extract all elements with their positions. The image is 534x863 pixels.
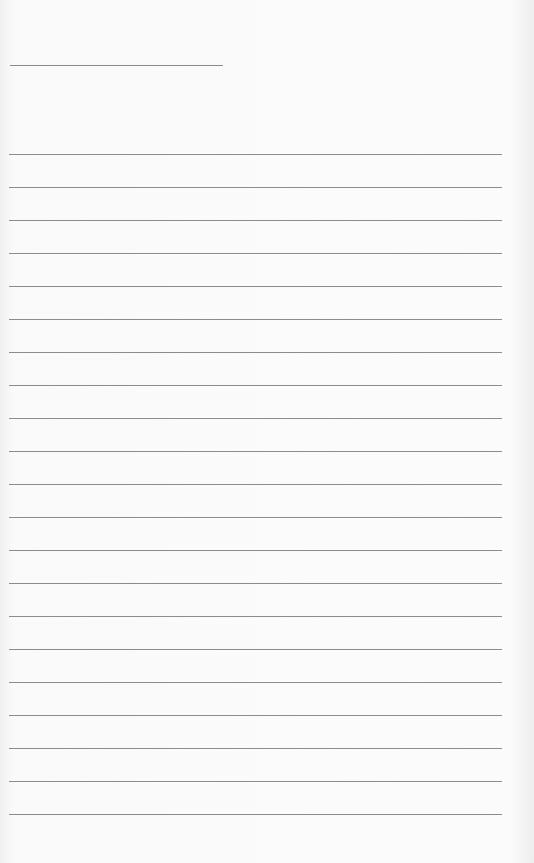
ruled-line xyxy=(9,286,502,287)
ruled-line xyxy=(9,319,502,320)
ruled-line xyxy=(9,781,502,782)
ruled-line xyxy=(9,385,502,386)
ruled-line xyxy=(9,616,502,617)
ruled-line xyxy=(9,484,502,485)
ruled-line xyxy=(9,352,502,353)
ruled-line xyxy=(9,649,502,650)
ruled-line xyxy=(9,220,502,221)
ruled-line xyxy=(9,748,502,749)
ruled-line xyxy=(9,814,502,815)
ruled-line xyxy=(9,715,502,716)
ruled-line xyxy=(9,418,502,419)
lined-paper-sheet xyxy=(0,0,534,863)
ruled-lines xyxy=(9,0,502,863)
ruled-line xyxy=(9,187,502,188)
ruled-line xyxy=(9,682,502,683)
ruled-line xyxy=(9,517,502,518)
ruled-line xyxy=(9,583,502,584)
ruled-line xyxy=(9,451,502,452)
ruled-line xyxy=(9,550,502,551)
ruled-line xyxy=(9,253,502,254)
ruled-line xyxy=(9,154,502,155)
